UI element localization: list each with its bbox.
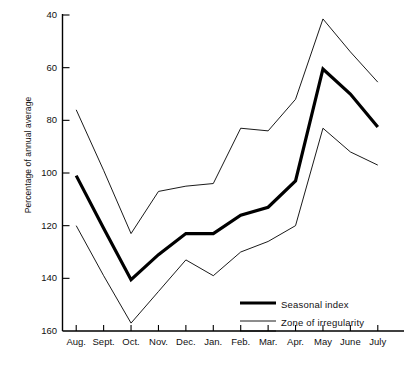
chart-series-group	[76, 19, 378, 323]
chart-axes	[63, 14, 405, 331]
y-tick-label: 160	[0, 325, 57, 336]
y-tick-label: 40	[0, 9, 57, 20]
x-tick-label-july: July	[360, 336, 396, 347]
y-tick-label: 60	[0, 62, 57, 73]
legend-label-zone-of-irregularity: Zone of irregularity	[281, 317, 364, 328]
y-tick-label: 120	[0, 220, 57, 231]
y-tick-label: 80	[0, 114, 57, 125]
legend-label-seasonal-index: Seasonal index	[281, 299, 349, 310]
y-tick-label: 100	[0, 167, 57, 178]
chart-plot-area	[0, 0, 414, 370]
y-tick-label: 140	[0, 272, 57, 283]
seasonal-index-chart: Percentage of annual average 40608010012…	[0, 0, 414, 370]
legend-marks	[240, 303, 276, 331]
